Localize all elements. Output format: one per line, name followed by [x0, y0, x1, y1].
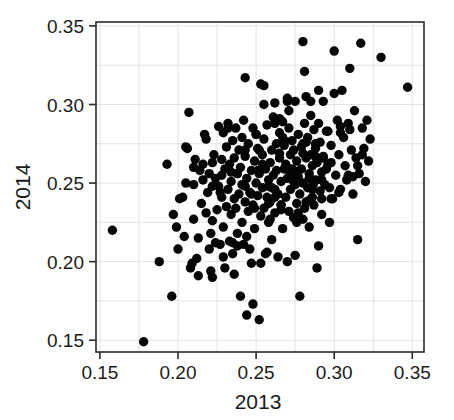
data-point — [317, 175, 326, 184]
data-point — [347, 145, 356, 154]
y-axis-title: 2014 — [11, 163, 34, 210]
data-point — [273, 252, 282, 261]
data-point — [189, 215, 198, 224]
data-point — [353, 235, 362, 244]
data-point — [236, 292, 245, 301]
x-axis-tick-label: 0.35 — [394, 362, 431, 383]
data-point — [326, 158, 335, 167]
data-point — [265, 215, 274, 224]
data-point — [209, 150, 218, 159]
y-axis-tick-label: 0.30 — [47, 95, 84, 116]
data-point — [345, 64, 354, 73]
x-axis-tick-labels-group: 0.150.200.250.300.35 — [81, 362, 430, 383]
data-point — [278, 133, 287, 142]
data-point — [256, 79, 265, 88]
data-point — [336, 122, 345, 131]
data-point — [253, 166, 262, 175]
data-point — [255, 315, 264, 324]
data-point — [248, 299, 257, 308]
data-point — [237, 133, 246, 142]
data-point — [340, 161, 349, 170]
data-point — [251, 130, 260, 139]
y-axis-tick-label: 0.25 — [47, 173, 84, 194]
data-point — [326, 141, 335, 150]
data-point — [215, 240, 224, 249]
data-point — [234, 189, 243, 198]
data-point — [325, 218, 334, 227]
data-point — [230, 270, 239, 279]
data-point — [230, 153, 239, 162]
x-axis-tick-label: 0.15 — [81, 362, 118, 383]
data-point — [306, 97, 315, 106]
data-point — [278, 224, 287, 233]
data-points-group — [108, 37, 413, 347]
data-point — [208, 158, 217, 167]
y-axis-tick-labels-group: 0.150.200.250.300.35 — [47, 16, 84, 351]
data-point — [305, 222, 314, 231]
data-point — [222, 202, 231, 211]
data-point — [108, 226, 117, 235]
data-point — [139, 337, 148, 346]
data-point — [181, 178, 190, 187]
data-point — [306, 111, 315, 120]
y-axis-ticks-group — [89, 26, 96, 340]
data-point — [169, 210, 178, 219]
data-point — [270, 193, 279, 202]
data-point — [348, 172, 357, 181]
data-point — [259, 134, 268, 143]
data-point — [358, 123, 367, 132]
data-point — [206, 229, 215, 238]
data-point — [173, 244, 182, 253]
data-point — [201, 208, 210, 217]
data-point — [267, 235, 276, 244]
data-point — [403, 83, 412, 92]
data-point — [297, 164, 306, 173]
data-point — [198, 160, 207, 169]
data-point — [272, 166, 281, 175]
data-point — [275, 149, 284, 158]
data-point — [250, 204, 259, 213]
data-point — [345, 125, 354, 134]
data-point — [292, 156, 301, 165]
data-point — [189, 180, 198, 189]
data-point — [233, 241, 242, 250]
data-point — [290, 251, 299, 260]
data-point — [208, 273, 217, 282]
data-point — [270, 98, 279, 107]
data-point — [228, 136, 237, 145]
data-point — [312, 263, 321, 272]
data-point — [255, 145, 264, 154]
data-point — [361, 177, 370, 186]
data-point — [298, 149, 307, 158]
y-axis-tick-label: 0.15 — [47, 330, 84, 351]
data-point — [283, 94, 292, 103]
data-point — [314, 86, 323, 95]
scatter-plot-figure: 0.150.200.250.300.35 0.150.200.250.300.3… — [0, 0, 454, 420]
data-point — [167, 292, 176, 301]
data-point — [317, 210, 326, 219]
data-point — [283, 257, 292, 266]
data-point — [247, 189, 256, 198]
data-point — [358, 150, 367, 159]
data-point — [226, 177, 235, 186]
data-point — [162, 160, 171, 169]
data-point — [284, 106, 293, 115]
data-point — [376, 53, 385, 62]
data-point — [240, 182, 249, 191]
data-point — [220, 263, 229, 272]
data-point — [329, 46, 338, 55]
data-point — [212, 205, 221, 214]
data-point — [237, 218, 246, 227]
data-point — [275, 114, 284, 123]
data-point — [201, 134, 210, 143]
data-point — [329, 89, 338, 98]
data-point — [331, 171, 340, 180]
data-point — [205, 169, 214, 178]
data-point — [326, 194, 335, 203]
data-point — [259, 100, 268, 109]
data-point — [350, 106, 359, 115]
x-axis-ticks-group — [100, 352, 412, 359]
data-point — [289, 166, 298, 175]
data-point — [155, 257, 164, 266]
x-axis-tick-label: 0.25 — [238, 362, 275, 383]
